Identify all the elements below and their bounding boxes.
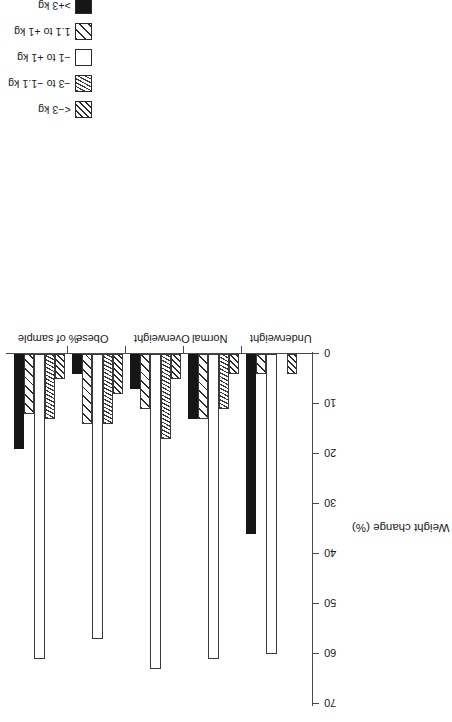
- bar: [208, 354, 218, 659]
- legend-item-label: −3 to −1.1 kg: [8, 78, 71, 89]
- bar: [130, 354, 140, 389]
- axis-tick: [312, 453, 319, 454]
- bar: [150, 354, 160, 669]
- bar: [82, 354, 92, 424]
- bar: [34, 354, 44, 659]
- legend-item-label: −1 to +1 kg: [17, 52, 71, 63]
- axis-tick: [312, 653, 319, 654]
- bar: [103, 354, 113, 424]
- legend-item[interactable]: >+3 kg: [38, 0, 92, 14]
- legend-item-label: <−3 kg: [38, 104, 71, 115]
- value-axis-title: Weight change (%): [352, 334, 452, 722]
- bar: [113, 354, 123, 394]
- bar: [246, 354, 256, 534]
- axis-tick-label: 40: [324, 547, 336, 558]
- bar: [256, 354, 266, 374]
- category-label: Obese: [76, 333, 108, 344]
- axis-tick: [312, 553, 319, 554]
- bar: [198, 354, 208, 419]
- axis-tick-label: 0: [324, 347, 330, 358]
- sparse-diagonal-hatch-swatch: [75, 23, 92, 40]
- bar: [14, 354, 24, 449]
- legend-item-label: 1.1 to +1 kg: [14, 26, 70, 37]
- category-label: Overweight: [134, 333, 190, 344]
- axis-tick-label: 10: [324, 397, 336, 408]
- legend-item[interactable]: −3 to −1.1 kg: [8, 75, 92, 92]
- dense-diagonal-hatch-swatch: [75, 101, 92, 118]
- plot-area: 010203040506070 % of sampleObeseOverweig…: [0, 118, 400, 722]
- bar: [188, 354, 198, 419]
- bar: [45, 354, 55, 419]
- bar: [161, 354, 171, 439]
- axis-tick-label: 70: [324, 697, 336, 708]
- bar-group: [14, 118, 72, 722]
- bar: [92, 354, 102, 639]
- value-axis-title-text: Weight change (%): [352, 522, 450, 534]
- category-label: Underweight: [250, 333, 312, 344]
- bar: [140, 354, 150, 409]
- legend-item[interactable]: 1.1 to +1 kg: [14, 23, 91, 40]
- category-label: Normal: [192, 333, 227, 344]
- bar: [219, 354, 229, 409]
- bar: [266, 354, 276, 654]
- bar-group: [188, 118, 246, 722]
- axis-tick: [312, 703, 319, 704]
- category-label: % of sample: [18, 333, 79, 344]
- bar: [229, 354, 239, 374]
- axis-tick: [312, 403, 319, 404]
- bar: [287, 354, 297, 374]
- axis-tick-label: 50: [324, 597, 336, 608]
- solid-black-swatch: [75, 0, 92, 14]
- white-swatch: [75, 49, 92, 66]
- dashed-scatter-swatch: [75, 75, 92, 92]
- bar: [171, 354, 181, 379]
- legend-item-label: >+3 kg: [38, 0, 71, 11]
- bar: [55, 354, 65, 379]
- legend-item[interactable]: −1 to +1 kg: [17, 49, 92, 66]
- bar-group: [72, 118, 130, 722]
- bar-group: [130, 118, 188, 722]
- legend: <−3 kg−3 to −1.1 kg−1 to +1 kg1.1 to +1 …: [8, 0, 92, 118]
- bar: [72, 354, 82, 374]
- axis-tick: [312, 603, 319, 604]
- axis-tick-label: 60: [324, 647, 336, 658]
- bar: [24, 354, 34, 414]
- axis-tick-label: 30: [324, 497, 336, 508]
- bar-group: [246, 118, 304, 722]
- axis-tick: [312, 503, 319, 504]
- axis-tick: [312, 353, 319, 354]
- legend-item[interactable]: <−3 kg: [38, 101, 92, 118]
- axis-tick-label: 20: [324, 447, 336, 458]
